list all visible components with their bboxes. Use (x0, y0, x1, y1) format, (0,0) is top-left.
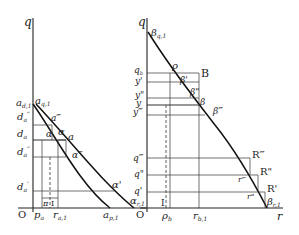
B-label: B (201, 67, 209, 80)
right-I-label: I (161, 198, 165, 208)
da2-label: da" (17, 110, 30, 123)
a-label: a (68, 131, 74, 142)
da1-label: da' (17, 180, 29, 193)
pi-label: π (42, 199, 49, 208)
rb1-label: rb,1 (193, 210, 207, 222)
y-triple-prime-label: y‴ (132, 107, 143, 117)
right-panel: q O r βq,1 ρ B qb y' y" y y‴ β' β" β β‴ … (132, 15, 283, 223)
alpha-triple-label: α‴ (72, 150, 83, 160)
beta-prime-label: β' (179, 75, 188, 85)
beta-double-prime-label: β" (189, 87, 199, 97)
q-prime-label: q' (134, 186, 142, 196)
r-triple-prime-label: r‴ (238, 175, 247, 184)
right-q-label: q (138, 15, 146, 29)
y-prime-label: y' (134, 76, 143, 86)
pa-label: pa (34, 209, 44, 221)
left-origin-label: O (18, 209, 26, 220)
alpha-prime-label: α' (112, 179, 122, 190)
ap1-label: ap,1 (103, 209, 119, 222)
alpha-small-label: α (46, 129, 52, 139)
q-triple-prime-label: q‴ (133, 153, 144, 163)
qb-label: qb (134, 65, 143, 76)
rhob-label: ρb (161, 210, 172, 222)
beta-triple-prime-label: β‴ (212, 106, 223, 116)
R-prime-label: R' (267, 183, 277, 194)
q-double-prime-label: q" (134, 169, 144, 179)
da3-label: da‴ (17, 145, 31, 158)
left-panel: q O ad,1 aq,1 da" da da‴ da' a‴ α α a α‴… (16, 15, 146, 222)
left-q-label: q (24, 15, 32, 29)
beta-r1-label: βr,1 (266, 196, 281, 208)
R-triple-prime-label: R‴ (252, 149, 265, 160)
a-triple-prime-label: a‴ (51, 113, 61, 123)
r-axis-label: r (277, 210, 283, 223)
r-double-prime-label: r" (247, 192, 255, 201)
right-origin-label: O (136, 209, 144, 220)
alpha-label: α (58, 126, 65, 137)
diagram: q O ad,1 aq,1 da" da da‴ da' a‴ α α a α‴… (0, 0, 299, 235)
da-label: da (17, 128, 27, 140)
ad1-label: ad,1 (16, 97, 32, 109)
left-I-label: I (51, 199, 54, 208)
ra1-label: ra,1 (53, 209, 67, 221)
beta-label: β (199, 97, 205, 107)
R-double-prime-label: R" (260, 166, 272, 177)
alpha-r1-label: αr,1 (130, 195, 145, 207)
rho-label: ρ (171, 60, 178, 71)
